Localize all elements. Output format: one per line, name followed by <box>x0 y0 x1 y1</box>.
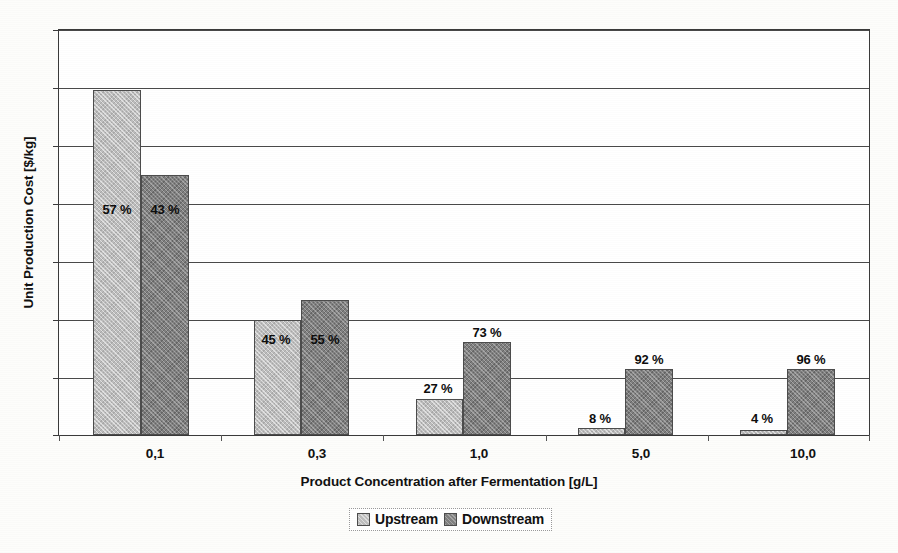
gridline <box>59 30 869 31</box>
legend-label-downstream: Downstream <box>462 511 544 527</box>
x-axis-tick <box>383 435 384 441</box>
bar-label-downstream-2: 73 % <box>463 325 511 340</box>
gridline <box>59 88 869 89</box>
bar-chart-figure: Unit Production Cost [$/kg] 57 % 43 % <box>0 0 898 553</box>
bar-upstream-3[interactable] <box>578 428 625 435</box>
x-axis-tick <box>59 435 60 441</box>
x-axis-label-2: 1,0 <box>439 446 519 461</box>
legend-item-upstream[interactable]: Upstream <box>357 511 438 527</box>
legend-swatch-downstream-icon <box>444 513 457 526</box>
bar-label-downstream-1: 55 % <box>301 332 349 347</box>
x-axis-tick <box>221 435 222 441</box>
x-axis-label-3: 5,0 <box>601 446 681 461</box>
bar-upstream-4[interactable] <box>740 430 787 435</box>
figure-caption <box>18 538 888 553</box>
chart-legend: Upstream Downstream <box>349 508 552 531</box>
y-axis-tick <box>53 204 59 205</box>
gridline <box>59 146 869 147</box>
y-axis-title: Unit Production Cost [$/kg] <box>21 103 36 343</box>
bar-label-downstream-3: 92 % <box>625 352 673 367</box>
y-axis-tick <box>53 378 59 379</box>
bar-label-upstream-2: 27 % <box>414 381 462 396</box>
y-axis-tick <box>53 320 59 321</box>
bar-label-downstream-0: 43 % <box>141 202 189 217</box>
bar-label-upstream-1: 45 % <box>252 332 300 347</box>
x-axis-title: Product Concentration after Fermentation… <box>0 474 898 489</box>
x-axis-tick <box>869 435 870 441</box>
bar-upstream-2[interactable] <box>416 399 463 435</box>
x-axis-tick <box>708 435 709 441</box>
legend-swatch-upstream-icon <box>357 513 370 526</box>
y-axis-tick <box>53 88 59 89</box>
bar-downstream-1[interactable] <box>301 300 349 435</box>
plot-area: 57 % 43 % 45 % 55 % 27 % 73 % 8 % 92 % 4… <box>58 29 870 436</box>
y-axis-tick <box>53 262 59 263</box>
bar-upstream-0[interactable] <box>93 90 141 435</box>
bar-downstream-4[interactable] <box>787 369 835 435</box>
bar-downstream-2[interactable] <box>463 342 511 435</box>
bar-label-upstream-0: 57 % <box>93 202 141 217</box>
x-axis-tick <box>546 435 547 441</box>
x-axis-label-1: 0,3 <box>277 446 357 461</box>
y-axis-tick <box>53 146 59 147</box>
x-axis-label-0: 0,1 <box>115 446 195 461</box>
bar-downstream-3[interactable] <box>625 369 673 435</box>
bar-label-upstream-3: 8 % <box>576 411 624 426</box>
legend-label-upstream: Upstream <box>375 511 438 527</box>
y-axis-tick <box>53 30 59 31</box>
x-axis-label-4: 10,0 <box>763 446 843 461</box>
legend-item-downstream[interactable]: Downstream <box>444 511 544 527</box>
bar-label-upstream-4: 4 % <box>738 411 786 426</box>
bar-label-downstream-4: 96 % <box>787 352 835 367</box>
